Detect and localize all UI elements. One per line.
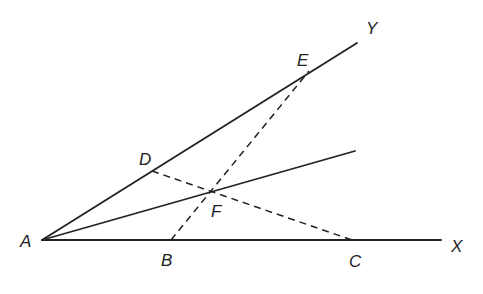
segment-BE xyxy=(171,71,309,240)
label-E: E xyxy=(297,51,309,70)
ray-AY xyxy=(42,43,357,240)
label-X: X xyxy=(450,237,463,256)
label-A: A xyxy=(19,232,31,251)
label-C: C xyxy=(349,252,362,271)
label-Y: Y xyxy=(366,19,379,38)
label-F: F xyxy=(211,202,223,221)
label-B: B xyxy=(161,251,172,270)
label-D: D xyxy=(139,150,151,169)
bisector-AF xyxy=(42,151,355,240)
diagram-svg: A B C D E F X Y xyxy=(0,0,483,294)
segment-DC xyxy=(152,171,352,240)
geometry-diagram: A B C D E F X Y xyxy=(0,0,483,294)
